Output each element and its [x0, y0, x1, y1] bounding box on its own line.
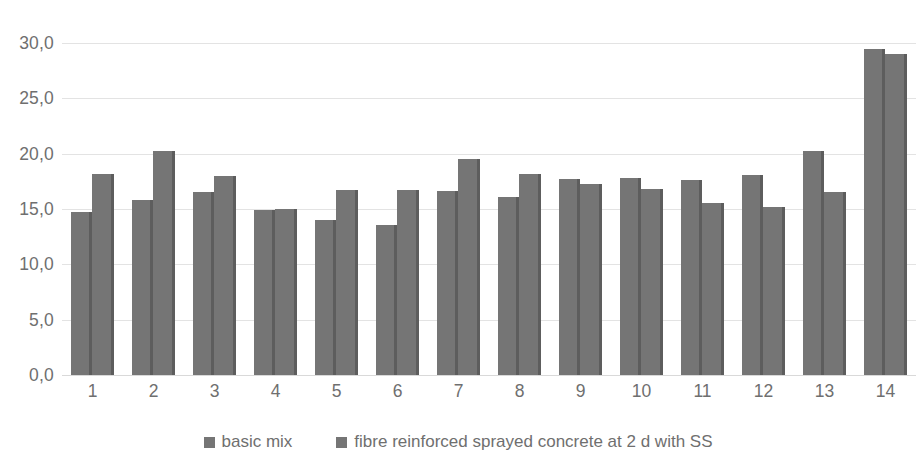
x-tick-label: 13: [815, 381, 834, 402]
bar: [92, 174, 114, 375]
bar: [498, 197, 520, 375]
bar: [641, 189, 663, 375]
bar: [437, 191, 459, 375]
legend-label: fibre reinforced sprayed concrete at 2 d…: [354, 432, 712, 452]
x-tick-label: 7: [454, 381, 464, 402]
x-tick-label: 12: [754, 381, 773, 402]
x-tick-label: 6: [393, 381, 403, 402]
x-axis-tick-labels: 1234567891011121314: [62, 381, 916, 411]
x-tick-label: 4: [271, 381, 281, 402]
bar: [254, 210, 276, 375]
bar: [803, 151, 825, 375]
legend-swatch-icon: [204, 437, 215, 448]
bar: [580, 184, 602, 375]
bar: [193, 192, 215, 375]
legend-entry[interactable]: basic mix: [204, 432, 293, 452]
chart-legend: basic mixfibre reinforced sprayed concre…: [0, 432, 916, 452]
bar: [153, 151, 175, 375]
x-tick-label: 14: [876, 381, 895, 402]
bar: [214, 176, 236, 375]
y-tick-label: 0,0: [29, 365, 54, 386]
bar: [336, 190, 358, 375]
x-tick-label: 8: [515, 381, 525, 402]
bar-group: [315, 43, 359, 375]
bar-group: [803, 43, 847, 375]
x-tick-label: 2: [149, 381, 159, 402]
legend-entry[interactable]: fibre reinforced sprayed concrete at 2 d…: [336, 432, 712, 452]
bar-group: [620, 43, 664, 375]
x-tick-label: 1: [88, 381, 98, 402]
legend-swatch-icon: [336, 437, 347, 448]
bar: [885, 54, 907, 375]
y-tick-label: 25,0: [19, 88, 54, 109]
bar-group: [437, 43, 481, 375]
bar: [824, 192, 846, 375]
bar-group: [498, 43, 542, 375]
bar: [742, 175, 764, 375]
x-tick-label: 10: [632, 381, 651, 402]
bar: [71, 212, 93, 375]
y-tick-label: 15,0: [19, 199, 54, 220]
x-axis-line: [62, 375, 916, 376]
bar-group: [559, 43, 603, 375]
bar-group: [193, 43, 237, 375]
bar: [864, 49, 886, 375]
x-tick-label: 9: [576, 381, 586, 402]
bar: [132, 200, 154, 375]
bars-layer: [62, 43, 916, 375]
y-axis-tick-labels: 0,05,010,015,020,025,030,0: [0, 43, 54, 375]
y-tick-label: 10,0: [19, 254, 54, 275]
bar: [458, 159, 480, 375]
bar-group: [254, 43, 298, 375]
bar: [620, 178, 642, 375]
y-tick-label: 30,0: [19, 33, 54, 54]
x-tick-label: 3: [210, 381, 220, 402]
y-tick-label: 5,0: [29, 309, 54, 330]
bar: [702, 203, 724, 375]
y-tick-label: 20,0: [19, 143, 54, 164]
plot-area: [62, 43, 916, 375]
bar: [376, 225, 398, 376]
bar-group: [376, 43, 420, 375]
bar-group: [742, 43, 786, 375]
bar: [315, 220, 337, 375]
bar: [559, 179, 581, 375]
bar-group: [132, 43, 176, 375]
bar: [681, 180, 703, 375]
bar-chart: 0,05,010,015,020,025,030,0 1234567891011…: [0, 0, 916, 467]
x-tick-label: 11: [693, 381, 711, 402]
legend-label: basic mix: [222, 432, 293, 452]
bar: [397, 190, 419, 375]
bar: [519, 174, 541, 375]
bar-group: [681, 43, 725, 375]
bar: [275, 209, 297, 375]
bar-group: [71, 43, 115, 375]
bar: [763, 207, 785, 375]
bar-group: [864, 43, 908, 375]
x-tick-label: 5: [332, 381, 342, 402]
